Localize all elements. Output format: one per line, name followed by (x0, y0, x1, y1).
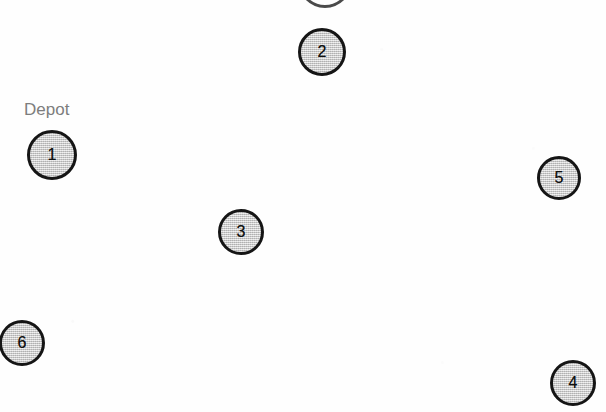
node-2[interactable]: 2 (298, 28, 346, 76)
node-6-number: 6 (18, 335, 27, 351)
node-3[interactable]: 3 (218, 209, 264, 255)
node-5[interactable]: 5 (537, 156, 581, 200)
node-2-number: 2 (318, 44, 327, 60)
node-6[interactable]: 6 (0, 320, 45, 366)
top-clipped-shape-artifact (298, 0, 352, 8)
depot-label: Depot (24, 101, 69, 118)
node-1-number: 1 (48, 147, 57, 163)
node-4[interactable]: 4 (550, 360, 596, 406)
node-4-number: 4 (569, 375, 578, 391)
node-3-number: 3 (237, 224, 246, 240)
node-1[interactable]: 1 (27, 130, 77, 180)
node-5-number: 5 (555, 170, 564, 186)
diagram-canvas: Depot 1 2 3 4 5 6 (0, 0, 606, 412)
